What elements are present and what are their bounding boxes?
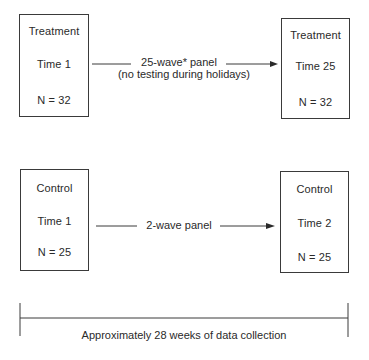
treatment-arrow-sublabel: (no testing during holidays): [104, 68, 264, 80]
control-time1-box: Control Time 1 N = 25: [20, 169, 89, 271]
treatment-arrowhead-icon: [270, 61, 278, 67]
treatment-time25-box: Treatment Time 25 N = 32: [281, 18, 350, 119]
time-label: Time 2: [281, 217, 348, 229]
time-label: Time 25: [282, 60, 349, 72]
control-time2-box: Control Time 2 N = 25: [280, 171, 349, 273]
sample-size: N = 25: [21, 246, 88, 258]
time-label: Time 1: [20, 58, 88, 70]
sample-size: N = 25: [281, 251, 348, 263]
control-arrow-label: 2-wave panel: [137, 219, 221, 231]
group-label: Treatment: [20, 25, 88, 37]
group-label: Control: [21, 182, 88, 194]
treatment-time1-box: Treatment Time 1 N = 32: [19, 14, 89, 117]
group-label: Control: [281, 183, 348, 195]
time-label: Time 1: [21, 215, 88, 227]
group-label: Treatment: [282, 29, 349, 41]
sample-size: N = 32: [20, 94, 88, 106]
sample-size: N = 32: [282, 96, 349, 108]
timeline-caption: Approximately 28 weeks of data collectio…: [20, 329, 348, 341]
control-arrowhead-icon: [266, 223, 275, 229]
treatment-arrow-label: 25-wave* panel: [131, 56, 227, 68]
